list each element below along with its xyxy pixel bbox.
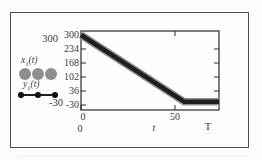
plot-curves xyxy=(81,35,219,102)
y-tick-label: 234 xyxy=(51,43,79,54)
x-range-end-label: T xyxy=(201,121,215,132)
x-range-start-label: 0 xyxy=(74,123,86,134)
plot-area xyxy=(0,0,262,160)
x-axis-variable-label: t xyxy=(148,122,160,133)
scan-artifact-line xyxy=(18,156,248,157)
y-tick-label: 36 xyxy=(51,85,79,96)
figure-screenshot: 300 -30 x1(t) y1(t) 300 234 168 102 36 -… xyxy=(0,0,262,160)
y-axis-ticks-right xyxy=(214,49,219,91)
y-tick-label: 300 xyxy=(51,29,79,40)
y-tick-label: 168 xyxy=(51,57,79,68)
x-tick-label: 0 xyxy=(78,111,88,122)
y-tick-label: -30 xyxy=(51,99,79,110)
series-curve-x1(t) xyxy=(81,35,219,102)
y-tick-label: 102 xyxy=(51,71,79,82)
x-tick-label: 50 xyxy=(167,111,183,122)
y-axis-ticks-left xyxy=(81,35,86,105)
